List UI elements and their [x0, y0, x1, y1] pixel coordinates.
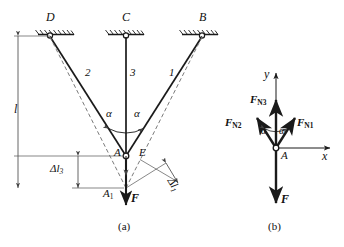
node-A-b — [273, 145, 279, 151]
force-FN3-sub: N3 — [257, 98, 266, 107]
support-label-B: B — [199, 11, 206, 23]
load-label-F: F — [131, 192, 139, 204]
support-label-C: C — [122, 11, 130, 23]
force-FN1-sub: N1 — [304, 121, 313, 130]
force-label-FN2: FN2 — [225, 117, 241, 130]
mechanics-figure — [0, 0, 344, 247]
member-2-line — [50, 37, 126, 157]
node-label-A1-sub: 1 — [110, 192, 114, 201]
angle-label-alpha-left-b: α — [261, 126, 266, 136]
axis-label-y: y — [264, 68, 269, 80]
member-label-2: 2 — [85, 67, 91, 78]
node-label-A: A — [114, 147, 121, 158]
node-label-A-b: A — [281, 150, 288, 161]
member-1-line — [126, 37, 202, 157]
force-label-FN1: FN1 — [297, 117, 313, 130]
axis-label-x: x — [322, 150, 327, 162]
node-label-A1: A1 — [103, 188, 113, 201]
dimension-label-delta-l3: Δl3 — [50, 163, 63, 176]
panel-b-group — [257, 73, 330, 203]
caption-a: (a) — [118, 221, 130, 232]
force-label-F: F — [281, 193, 289, 205]
delta-l3-sub: 3 — [60, 167, 64, 176]
support-D — [36, 30, 75, 38]
support-C — [106, 30, 145, 38]
force-label-FN3: FN3 — [250, 94, 266, 107]
force-FN2-sub: N2 — [232, 121, 241, 130]
angle-label-alpha-right-a: α — [134, 108, 140, 119]
caption-b: (b) — [268, 221, 281, 232]
angle-label-alpha-right-b: α — [279, 126, 284, 136]
angle-label-alpha-left-a: α — [106, 108, 112, 119]
node-label-A1-base: A — [103, 187, 110, 199]
dimension-label-l: l — [14, 103, 17, 115]
member-label-1: 1 — [169, 67, 175, 78]
node-label-E: E — [139, 147, 146, 158]
member-label-3: 3 — [130, 67, 136, 78]
support-B — [180, 30, 219, 38]
panel-a-group — [14, 30, 218, 205]
delta-l3-symbol: Δl — [50, 162, 60, 174]
support-label-D: D — [46, 11, 55, 23]
force-FN2-arrow — [257, 118, 276, 148]
